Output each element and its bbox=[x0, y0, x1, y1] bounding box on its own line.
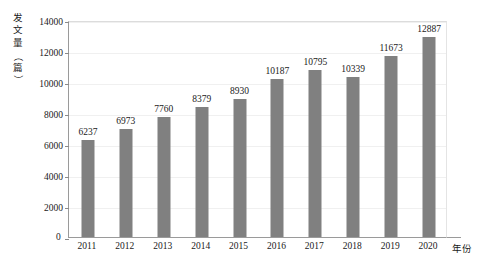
bar-value-label: 7760 bbox=[154, 104, 173, 114]
bar-group[interactable]: 8930 bbox=[221, 22, 259, 237]
x-axis-tick-label: 2017 bbox=[305, 241, 324, 251]
bar-value-label: 10795 bbox=[303, 57, 327, 67]
y-axis-tick-mark bbox=[65, 239, 69, 240]
bar-value-label: 8379 bbox=[192, 94, 211, 104]
bar[interactable] bbox=[347, 77, 360, 237]
bar-chart-figure: 发 文 量 （ 篇 ） 0 02000400060008000100001200… bbox=[0, 0, 477, 270]
bar-group[interactable]: 10187 bbox=[259, 22, 297, 237]
x-axis-tick-label: 2013 bbox=[153, 241, 172, 251]
bar[interactable] bbox=[157, 117, 170, 237]
y-axis-tick-label: 4000 bbox=[44, 172, 63, 182]
x-axis-tick-label: 2018 bbox=[343, 241, 362, 251]
y-axis-title-char-6: ） bbox=[13, 72, 23, 88]
x-axis-tick-label: 2016 bbox=[267, 241, 286, 251]
bar-group[interactable]: 8379 bbox=[183, 22, 221, 237]
y-axis-tick-label: 8000 bbox=[44, 110, 63, 120]
bar-group[interactable]: 7760 bbox=[145, 22, 183, 237]
y-axis-tick-label: 2000 bbox=[44, 203, 63, 213]
bar-group[interactable]: 10795 bbox=[296, 22, 334, 237]
bar[interactable] bbox=[271, 79, 284, 237]
x-axis-tick-label: 2020 bbox=[419, 241, 438, 251]
y-axis-tick-label: 6000 bbox=[44, 141, 63, 151]
bars-layer: 6237697377608379893010187107951033911673… bbox=[69, 22, 446, 237]
y-axis-title-char-1: 发 bbox=[10, 12, 26, 24]
bar[interactable] bbox=[423, 37, 436, 237]
bar-value-label: 6237 bbox=[78, 127, 97, 137]
bar-value-label: 10339 bbox=[341, 64, 365, 74]
bar-value-label: 10187 bbox=[266, 66, 290, 76]
x-axis-line-extension bbox=[447, 237, 461, 238]
bar[interactable] bbox=[81, 140, 94, 237]
x-axis-tick-label: 2019 bbox=[381, 241, 400, 251]
bar[interactable] bbox=[233, 99, 246, 237]
y-axis-title-char-3: 量 bbox=[10, 37, 26, 49]
bar-group[interactable]: 11673 bbox=[372, 22, 410, 237]
x-axis-tick-label: 2015 bbox=[229, 241, 248, 251]
origin-label: 0 bbox=[56, 232, 61, 242]
x-axis-tick-label: 2014 bbox=[191, 241, 210, 251]
plot-area: 02000400060008000100001200014000 6237697… bbox=[68, 21, 447, 238]
y-axis-tick-label: 14000 bbox=[39, 17, 63, 27]
bar[interactable] bbox=[309, 70, 322, 237]
bar-group[interactable]: 6973 bbox=[107, 22, 145, 237]
bar-value-label: 11673 bbox=[379, 43, 402, 53]
x-axis-tick-label: 2011 bbox=[78, 241, 97, 251]
bar-value-label: 8930 bbox=[230, 86, 249, 96]
x-axis-tick-label: 2012 bbox=[115, 241, 134, 251]
bar-group[interactable]: 10339 bbox=[334, 22, 372, 237]
bar-group[interactable]: 6237 bbox=[69, 22, 107, 237]
y-axis-tick-label: 10000 bbox=[39, 79, 63, 89]
x-axis-title: 年份 bbox=[452, 241, 472, 255]
bar[interactable] bbox=[385, 56, 398, 237]
bar-value-label: 6973 bbox=[116, 116, 135, 126]
y-axis-tick-label: 12000 bbox=[39, 48, 63, 58]
bar[interactable] bbox=[195, 107, 208, 237]
bar-group[interactable]: 12887 bbox=[410, 22, 448, 237]
y-axis-title-char-4: （ bbox=[13, 49, 23, 65]
bar-value-label: 12887 bbox=[417, 24, 441, 34]
bar[interactable] bbox=[119, 129, 132, 237]
y-axis-title-char-2: 文 bbox=[10, 24, 26, 36]
y-axis-title: 发 文 量 （ 篇 ） bbox=[10, 12, 26, 85]
